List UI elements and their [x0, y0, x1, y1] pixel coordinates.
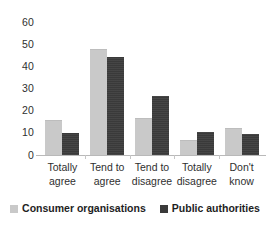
bar: [62, 133, 79, 155]
x-axis-tick: [85, 155, 86, 159]
x-axis-label-line: Don't: [219, 160, 264, 174]
bar: [242, 134, 259, 155]
legend-label: Consumer organisations: [22, 203, 146, 214]
bar-group: [135, 23, 169, 155]
bar-chart: 60 50 40 30 20 10 0 TotallyagreeTend toa…: [0, 0, 270, 225]
x-axis-tick: [174, 155, 175, 159]
bar: [225, 128, 242, 156]
x-axis-label: Totallydisagree: [174, 160, 219, 188]
bar: [107, 57, 124, 155]
x-axis-tick: [219, 155, 220, 159]
x-axis-label-line: disagree: [174, 174, 219, 188]
chart-legend: Consumer organisationsPublic authorities: [0, 203, 270, 214]
x-axis-category-labels: TotallyagreeTend toagreeTend todisagreeT…: [36, 160, 266, 196]
x-axis-label-line: agree: [85, 174, 130, 188]
bar: [135, 118, 152, 155]
x-axis-label-line: agree: [40, 174, 85, 188]
bar: [197, 132, 214, 155]
bar-group: [45, 23, 79, 155]
bar: [152, 96, 169, 155]
x-axis-label-line: Totally: [174, 160, 219, 174]
bar: [90, 49, 107, 155]
bar: [180, 140, 197, 155]
light-gray-square-icon: [10, 205, 18, 213]
bar: [45, 120, 62, 155]
x-axis-label-line: know: [219, 174, 264, 188]
bar-group: [225, 23, 259, 155]
x-axis-label-line: Tend to: [85, 160, 130, 174]
legend-label: Public authorities: [172, 203, 260, 214]
legend-entry: Public authorities: [160, 203, 260, 214]
x-axis-label: Tend toagree: [85, 160, 130, 188]
x-axis-tick: [130, 155, 131, 159]
x-axis-label: Totallyagree: [40, 160, 85, 188]
x-axis-label-line: Totally: [40, 160, 85, 174]
x-axis-label: Don'tknow: [219, 160, 264, 188]
dark-gray-square-icon: [160, 205, 168, 213]
bar-group: [180, 23, 214, 155]
bar-group: [90, 23, 124, 155]
legend-entry: Consumer organisations: [10, 203, 146, 214]
x-axis-label-line: Tend to: [130, 160, 175, 174]
x-axis-label-line: disagree: [130, 174, 175, 188]
x-axis-label: Tend todisagree: [130, 160, 175, 188]
